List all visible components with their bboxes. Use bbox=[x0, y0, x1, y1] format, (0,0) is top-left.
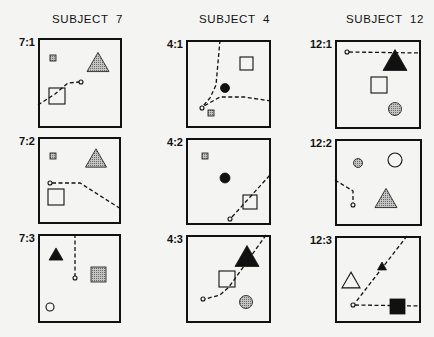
open-circle-icon bbox=[48, 181, 52, 185]
panel-frame bbox=[39, 235, 120, 322]
dashed-trajectory bbox=[232, 175, 270, 217]
stipple-square-icon bbox=[91, 267, 106, 282]
open-square-icon bbox=[48, 189, 64, 205]
panel-label: 4:3 bbox=[149, 233, 183, 245]
panel-label: 4:2 bbox=[149, 136, 183, 148]
trial-panel-4-3 bbox=[186, 235, 271, 323]
dashed-trajectory bbox=[203, 40, 220, 106]
trial-panel-7-3 bbox=[38, 234, 121, 323]
dashed-trajectory bbox=[355, 305, 421, 306]
open-circle-icon bbox=[228, 217, 232, 221]
panel-frame bbox=[39, 138, 120, 223]
trial-panel-12-1 bbox=[335, 40, 421, 129]
panel-frame bbox=[336, 237, 420, 322]
panel-frame bbox=[336, 41, 420, 128]
panel-frame bbox=[187, 41, 270, 127]
trial-panel-4-1 bbox=[186, 40, 271, 128]
stipple-triangle-icon bbox=[375, 188, 397, 207]
filled-triangle-icon bbox=[49, 248, 63, 260]
dashed-trajectory bbox=[38, 82, 79, 105]
panel-label: 12:2 bbox=[298, 137, 332, 149]
open-circle-icon bbox=[79, 80, 83, 84]
open-square-icon bbox=[219, 271, 235, 287]
panel-label: 12:1 bbox=[298, 38, 332, 50]
panel-label: 4:1 bbox=[149, 38, 183, 50]
stipple-square-icon bbox=[50, 55, 56, 61]
panel-label: 7:3 bbox=[1, 232, 35, 244]
trial-panel-12-3 bbox=[335, 236, 421, 323]
open-circle-icon bbox=[201, 297, 205, 301]
trial-panel-12-2 bbox=[335, 139, 422, 226]
dashed-trajectory bbox=[204, 97, 271, 106]
dashed-trajectory bbox=[205, 235, 266, 299]
subject-header: SUBJECT 12 bbox=[346, 13, 424, 25]
filled-circle-icon bbox=[220, 173, 230, 183]
filled-square-icon bbox=[390, 299, 405, 314]
trial-panel-7-2 bbox=[38, 137, 121, 224]
stipple-square-icon bbox=[202, 153, 208, 159]
open-circle-icon bbox=[351, 303, 355, 307]
stipple-square-icon bbox=[208, 110, 214, 116]
open-circle-icon bbox=[73, 276, 77, 280]
stipple-circle-icon bbox=[240, 296, 253, 309]
open-circle-icon bbox=[200, 106, 204, 110]
panel-label: 7:1 bbox=[1, 36, 35, 48]
subject-header: SUBJECT 7 bbox=[52, 13, 123, 25]
panel-frame bbox=[187, 236, 270, 322]
panel-frame bbox=[336, 140, 421, 225]
open-circle-icon bbox=[351, 203, 355, 207]
filled-circle-icon bbox=[221, 84, 230, 93]
panel-label: 12:3 bbox=[298, 234, 332, 246]
stipple-triangle-icon bbox=[87, 52, 109, 71]
open-square-icon bbox=[371, 77, 387, 93]
filled-triangle-icon bbox=[235, 246, 259, 267]
open-square-icon bbox=[240, 57, 253, 70]
panel-label: 7:2 bbox=[1, 135, 35, 147]
stipple-circle-icon bbox=[389, 103, 402, 116]
dashed-trajectory bbox=[335, 180, 353, 203]
subject-header: SUBJECT 4 bbox=[199, 13, 270, 25]
open-circle-icon bbox=[388, 153, 402, 167]
open-circle-icon bbox=[345, 50, 349, 54]
stipple-triangle-icon bbox=[86, 149, 107, 167]
stipple-circle-icon bbox=[354, 159, 363, 168]
open-circle-icon bbox=[46, 303, 54, 311]
trial-panel-7-1 bbox=[38, 38, 122, 128]
trial-panel-4-2 bbox=[186, 138, 271, 225]
open-triangle-icon bbox=[342, 272, 360, 288]
dashed-trajectory bbox=[349, 52, 421, 53]
stipple-square-icon bbox=[50, 153, 56, 159]
